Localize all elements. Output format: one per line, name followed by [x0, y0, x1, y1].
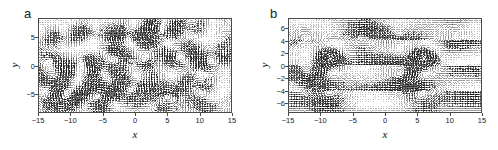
quiver-vector-field	[39, 19, 231, 112]
ytick-mark	[285, 91, 288, 92]
xtick-label: −10	[64, 116, 77, 125]
xtick-label: −10	[314, 116, 327, 125]
ytick-label: 0	[271, 61, 285, 70]
xtick-label: 10	[445, 116, 453, 125]
ytick-mark	[35, 37, 38, 38]
xtick-mark	[288, 113, 289, 116]
quiver-vector-field	[289, 19, 481, 112]
ytick-mark	[285, 103, 288, 104]
xtick-mark	[320, 113, 321, 116]
panel-a-y-axis-title: y	[8, 63, 20, 68]
ytick-mark	[35, 66, 38, 67]
panel-a-label: a	[24, 6, 31, 21]
ytick-mark	[285, 78, 288, 79]
xtick-label: −15	[282, 116, 295, 125]
ytick-mark	[285, 28, 288, 29]
xtick-mark	[167, 113, 168, 116]
panel-b-y-axis-title: y	[258, 63, 270, 68]
xtick-mark	[70, 113, 71, 116]
xtick-label: 5	[165, 116, 169, 125]
panel-b-label: b	[270, 6, 277, 21]
panel-a-plot-area	[38, 18, 232, 113]
xtick-label: 10	[195, 116, 203, 125]
ytick-label: 0	[21, 61, 35, 70]
xtick-mark	[232, 113, 233, 116]
xtick-mark	[103, 113, 104, 116]
xtick-label: −15	[32, 116, 45, 125]
panel-a: a 50−5 y −15−10−5051015 x	[0, 0, 249, 150]
xtick-label: −5	[98, 116, 107, 125]
panel-a-x-axis-title: x	[133, 128, 138, 140]
xtick-mark	[135, 113, 136, 116]
figure-vector-field-panels: a 50−5 y −15−10−5051015 x b 6420−2−4−6 y…	[0, 0, 498, 150]
ytick-label: 2	[271, 49, 285, 58]
xtick-mark	[385, 113, 386, 116]
ytick-label: −5	[21, 90, 35, 99]
ytick-label: −4	[271, 86, 285, 95]
ytick-label: −6	[271, 99, 285, 108]
xtick-label: −5	[348, 116, 357, 125]
ytick-mark	[285, 41, 288, 42]
panel-b-plot-area	[288, 18, 482, 113]
xtick-label: 15	[228, 116, 236, 125]
xtick-mark	[353, 113, 354, 116]
xtick-label: 0	[133, 116, 137, 125]
xtick-mark	[38, 113, 39, 116]
ytick-label: 5	[21, 32, 35, 41]
ytick-label: 4	[271, 36, 285, 45]
xtick-mark	[417, 113, 418, 116]
xtick-mark	[450, 113, 451, 116]
xtick-label: 15	[478, 116, 486, 125]
ytick-mark	[35, 94, 38, 95]
ytick-mark	[285, 53, 288, 54]
xtick-mark	[482, 113, 483, 116]
xtick-label: 5	[415, 116, 419, 125]
xtick-label: 0	[383, 116, 387, 125]
ytick-label: 6	[271, 24, 285, 33]
xtick-mark	[200, 113, 201, 116]
panel-b-x-axis-title: x	[383, 128, 388, 140]
panel-b: b 6420−2−4−6 y −15−10−5051015 x	[249, 0, 498, 150]
ytick-label: −2	[271, 74, 285, 83]
ytick-mark	[285, 66, 288, 67]
